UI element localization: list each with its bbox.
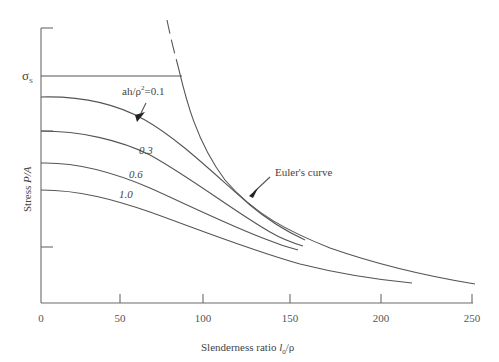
y-axis-title: Stress P/A [21,166,33,212]
ecc-0.1-label: ah/ρ2=0.1 [122,84,164,97]
curve-ecc-0.6 [41,163,298,250]
euler-curve-label: Euler's curve [275,166,332,178]
euler-label-arrow [249,177,270,198]
curve-1.0-label: 1.0 [119,188,133,200]
x-tick-label-100: 100 [195,312,212,324]
x-axis-title: Slenderness ratio l0/ρ [201,341,295,356]
sigma-s-label: σS [22,68,33,85]
axes [41,28,473,303]
x-tick-label-250: 250 [464,312,481,324]
euler-curve [167,20,178,66]
x-tick-label-50: 50 [115,312,127,324]
curve-0.6-label: 0.6 [129,168,143,180]
curve-ecc-0.3 [41,131,303,246]
chart: σS ah/ρ2=0.1 0.3 0.6 1.0 Euler's curve 0… [0,0,499,362]
x-tick-label-200: 200 [373,312,390,324]
curve-0.3-label: 0.3 [139,144,153,156]
x-tick-label-0: 0 [38,312,44,324]
x-tick-label-150: 150 [282,312,299,324]
